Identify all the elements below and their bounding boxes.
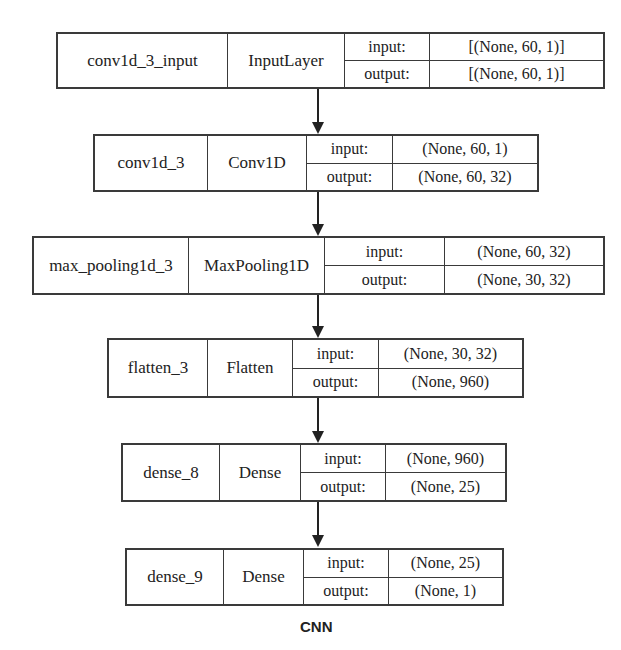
io-labels: input: output: xyxy=(301,445,386,500)
input-shape: (None, 30, 32) xyxy=(379,340,522,369)
edge-line xyxy=(317,192,319,225)
arrow-head-icon xyxy=(312,431,324,443)
io-shapes: [(None, 60, 1)] [(None, 60, 1)] xyxy=(430,34,603,87)
input-shape: (None, 60, 1) xyxy=(393,136,537,164)
layer-name: conv1d_3 xyxy=(95,136,208,190)
arrow-head-icon xyxy=(312,122,324,134)
output-label: output: xyxy=(301,473,385,500)
output-label: output: xyxy=(304,578,388,605)
input-shape: (None, 60, 32) xyxy=(445,238,603,266)
layer-name: max_pooling1d_3 xyxy=(34,238,189,293)
io-shapes: (None, 30, 32) (None, 960) xyxy=(379,340,522,396)
layer-type: MaxPooling1D xyxy=(189,238,325,293)
input-label: input: xyxy=(304,550,388,578)
layer-node-dense-8: dense_8 Dense input: output: (None, 960)… xyxy=(121,443,507,502)
layer-name: dense_9 xyxy=(127,550,224,604)
layer-name: dense_8 xyxy=(123,445,220,500)
layer-type: Flatten xyxy=(208,340,293,396)
input-shape: (None, 960) xyxy=(386,445,505,473)
io-labels: input: output: xyxy=(307,136,393,190)
layer-type: Dense xyxy=(224,550,304,604)
io-labels: input: output: xyxy=(325,238,445,293)
layer-name: flatten_3 xyxy=(109,340,208,396)
io-labels: input: output: xyxy=(304,550,389,604)
input-label: input: xyxy=(345,34,429,61)
layer-node-conv1d-3: conv1d_3 Conv1D input: output: (None, 60… xyxy=(93,134,539,192)
input-shape: (None, 25) xyxy=(389,550,502,578)
output-label: output: xyxy=(307,164,392,191)
io-labels: input: output: xyxy=(345,34,430,87)
layer-node-flatten-3: flatten_3 Flatten input: output: (None, … xyxy=(107,338,524,398)
edge-line xyxy=(317,398,319,432)
output-shape: (None, 30, 32) xyxy=(445,266,603,293)
layer-type: Dense xyxy=(220,445,301,500)
arrow-head-icon xyxy=(312,326,324,338)
output-shape: (None, 1) xyxy=(389,578,502,605)
edge-line xyxy=(317,502,319,536)
edge-line xyxy=(317,295,319,327)
output-label: output: xyxy=(345,61,429,87)
output-shape: [(None, 60, 1)] xyxy=(430,61,603,87)
layer-node-dense-9: dense_9 Dense input: output: (None, 25) … xyxy=(125,548,504,606)
layer-type: Conv1D xyxy=(208,136,307,190)
io-labels: input: output: xyxy=(293,340,379,396)
input-shape: [(None, 60, 1)] xyxy=(430,34,603,61)
input-label: input: xyxy=(301,445,385,473)
input-label: input: xyxy=(307,136,392,164)
arrow-head-icon xyxy=(312,224,324,236)
io-shapes: (None, 60, 1) (None, 60, 32) xyxy=(393,136,537,190)
output-shape: (None, 60, 32) xyxy=(393,164,537,191)
layer-node-conv1d-3-input: conv1d_3_input InputLayer input: output:… xyxy=(56,32,605,89)
output-shape: (None, 25) xyxy=(386,473,505,500)
input-label: input: xyxy=(325,238,444,266)
input-label: input: xyxy=(293,340,378,369)
output-label: output: xyxy=(325,266,444,293)
output-shape: (None, 960) xyxy=(379,369,522,397)
layer-type: InputLayer xyxy=(228,34,345,87)
figure-caption: CNN xyxy=(300,618,333,635)
output-label: output: xyxy=(293,369,378,397)
layer-name: conv1d_3_input xyxy=(58,34,228,87)
arrow-head-icon xyxy=(312,535,324,547)
io-shapes: (None, 25) (None, 1) xyxy=(389,550,502,604)
layer-node-max-pooling1d-3: max_pooling1d_3 MaxPooling1D input: outp… xyxy=(32,236,605,295)
io-shapes: (None, 960) (None, 25) xyxy=(386,445,505,500)
edge-line xyxy=(317,89,319,123)
io-shapes: (None, 60, 32) (None, 30, 32) xyxy=(445,238,603,293)
